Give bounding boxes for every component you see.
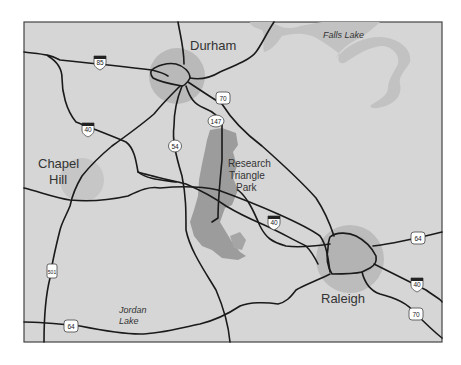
svg-text:147: 147	[211, 118, 222, 125]
durham-halo	[149, 48, 205, 104]
svg-text:40: 40	[270, 219, 278, 226]
svg-text:85: 85	[96, 59, 104, 66]
svg-text:64: 64	[414, 235, 422, 242]
shield-nc-147: 147	[208, 115, 224, 127]
svg-text:501: 501	[48, 269, 57, 275]
city-label-chapel-hill-1: Chapel	[38, 156, 79, 171]
shield-us-64-east: 64	[411, 232, 425, 244]
lake-label-jordan-1: Jordan	[118, 305, 147, 315]
shield-nc-54: 54	[169, 140, 182, 152]
svg-text:40: 40	[84, 126, 92, 133]
map: Durham Chapel Hill Raleigh Research Tria…	[0, 0, 461, 365]
shield-us-64-west: 64	[64, 320, 78, 332]
svg-text:64: 64	[67, 323, 75, 330]
city-label-raleigh: Raleigh	[321, 291, 365, 306]
rtp-label-3: Park	[236, 182, 258, 193]
shield-us-70-north: 70	[216, 92, 230, 104]
city-label-chapel-hill-2: Hill	[49, 172, 67, 187]
svg-text:70: 70	[412, 311, 420, 318]
rtp-label-1: Research	[228, 158, 271, 169]
city-label-durham: Durham	[190, 38, 236, 53]
lake-label-jordan-2: Lake	[119, 316, 139, 326]
lake-label-falls: Falls Lake	[323, 30, 364, 40]
svg-text:40: 40	[413, 281, 421, 288]
svg-text:70: 70	[219, 95, 227, 102]
rtp-label-2: Triangle	[229, 170, 265, 181]
svg-text:54: 54	[171, 143, 179, 150]
shield-us-70-southeast: 70	[409, 308, 423, 320]
shield-us-501: 501	[47, 264, 57, 278]
